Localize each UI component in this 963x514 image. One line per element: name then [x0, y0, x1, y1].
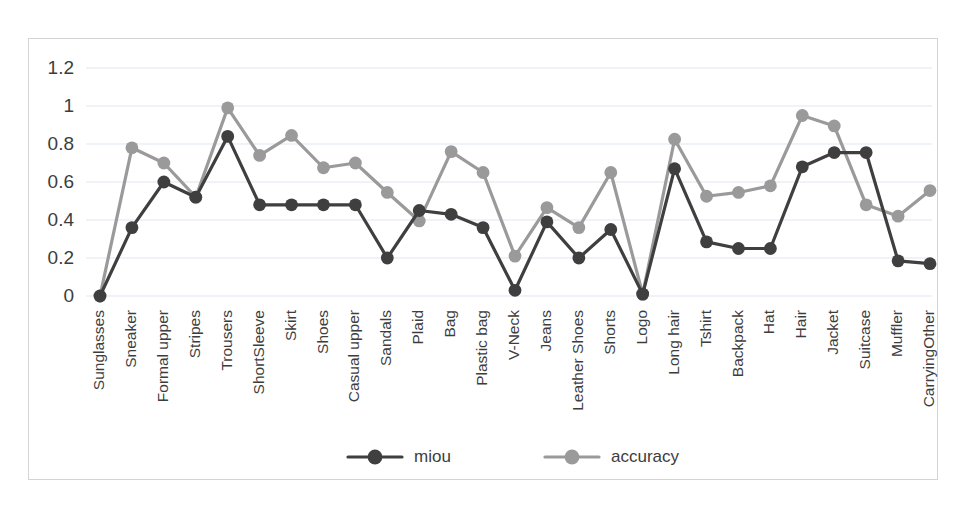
gridlines: [86, 68, 932, 296]
x-axis-tick-label: Formal upper: [154, 310, 171, 402]
data-point: [317, 161, 330, 174]
data-point: [541, 216, 554, 229]
x-axis-tick-label: Plaid: [409, 310, 426, 344]
data-point: [796, 160, 809, 173]
data-point: [796, 109, 809, 122]
y-axis-tick-label: 0.2: [48, 247, 74, 268]
data-point: [924, 184, 937, 197]
data-point: [541, 201, 554, 214]
data-point: [828, 120, 841, 133]
data-point: [700, 190, 713, 203]
x-axis-tick-label: Sunglasses: [90, 310, 107, 390]
y-axis-tick-label: 1.2: [48, 57, 74, 78]
data-point: [764, 179, 777, 192]
series-accuracy: [94, 102, 937, 303]
data-point: [509, 284, 522, 297]
x-axis-tick-label: Sneaker: [122, 310, 139, 368]
data-point: [253, 198, 266, 211]
y-axis-tick-labels: 1.210.80.60.40.20: [48, 57, 75, 306]
x-axis-tick-label: Stripes: [186, 310, 203, 358]
series-line-miou: [100, 136, 930, 296]
data-point: [572, 221, 585, 234]
data-point: [668, 162, 681, 175]
data-point: [126, 141, 139, 154]
x-axis-tick-label: Jacket: [824, 309, 841, 354]
data-point: [860, 198, 873, 211]
x-axis-tick-label: Hat: [760, 309, 777, 334]
data-point: [860, 146, 873, 159]
data-point: [94, 290, 107, 303]
x-axis-tick-label: Backpack: [729, 310, 746, 377]
x-axis-tick-label: Leather Shoes: [569, 310, 586, 411]
x-axis-tick-label: Suitcase: [856, 310, 873, 369]
data-point: [317, 198, 330, 211]
legend-marker-accuracy: [565, 450, 580, 465]
x-axis-tick-label: Casual upper: [345, 310, 362, 402]
data-point: [732, 242, 745, 255]
chart-container: 1.210.80.60.40.20 SunglassesSneakerForma…: [0, 0, 963, 514]
data-point: [700, 235, 713, 248]
x-axis-tick-label: Trousers: [218, 310, 235, 371]
data-point: [285, 198, 298, 211]
legend-label-accuracy: accuracy: [611, 447, 680, 466]
x-axis-tick-label: Long hair: [665, 310, 682, 375]
legend-marker-miou: [368, 450, 383, 465]
data-point: [636, 288, 649, 301]
data-point: [157, 176, 170, 189]
x-axis-tick-label: Bag: [441, 310, 458, 338]
x-axis-tick-label: CarryingOther: [920, 310, 937, 407]
data-point: [189, 191, 202, 204]
legend-label-miou: miou: [414, 447, 451, 466]
x-axis-tick-label: Plastic bag: [473, 310, 490, 386]
data-point: [126, 221, 139, 234]
x-axis-tick-label: Sandals: [377, 310, 394, 366]
data-point: [445, 208, 458, 221]
x-axis-tick-labels: SunglassesSneakerFormal upperStripesTrou…: [90, 309, 937, 411]
data-point: [349, 157, 362, 170]
x-axis-tick-label: Shorts: [601, 310, 618, 355]
data-point: [221, 130, 234, 143]
line-chart: 1.210.80.60.40.20 SunglassesSneakerForma…: [0, 0, 963, 514]
x-axis-tick-label: Tshirt: [697, 309, 714, 347]
data-point: [764, 242, 777, 255]
data-point: [572, 252, 585, 265]
data-point: [445, 145, 458, 158]
data-point: [221, 102, 234, 115]
data-point: [349, 198, 362, 211]
x-axis-tick-label: ShortSleeve: [250, 310, 267, 394]
data-point: [381, 186, 394, 199]
chart-legend: miouaccuracy: [348, 447, 680, 466]
x-axis-tick-label: Skirt: [282, 309, 299, 341]
data-point: [253, 149, 266, 162]
data-point: [477, 166, 490, 179]
y-axis-tick-label: 0.6: [48, 171, 74, 192]
data-point: [157, 157, 170, 170]
data-point: [668, 133, 681, 146]
data-point: [477, 221, 490, 234]
data-point: [509, 250, 522, 263]
y-axis-tick-label: 1: [63, 95, 74, 116]
y-axis-tick-label: 0.4: [48, 209, 75, 230]
data-point: [413, 204, 426, 217]
x-axis-tick-label: Hair: [792, 310, 809, 338]
y-axis-tick-label: 0.8: [48, 133, 74, 154]
data-point: [732, 186, 745, 199]
x-axis-tick-label: V-Neck: [505, 310, 522, 360]
data-point: [604, 223, 617, 236]
data-point: [892, 210, 905, 223]
x-axis-tick-label: Jeans: [537, 310, 554, 352]
series-miou: [94, 130, 937, 302]
x-axis-tick-label: Shoes: [314, 310, 331, 354]
data-point: [604, 166, 617, 179]
x-axis-tick-label: Logo: [633, 310, 650, 344]
data-point: [828, 146, 841, 159]
data-point: [285, 129, 298, 142]
data-point: [381, 252, 394, 265]
y-axis-tick-label: 0: [63, 285, 74, 306]
data-point: [892, 254, 905, 267]
x-axis-tick-label: Muffler: [888, 310, 905, 357]
data-point: [924, 257, 937, 270]
